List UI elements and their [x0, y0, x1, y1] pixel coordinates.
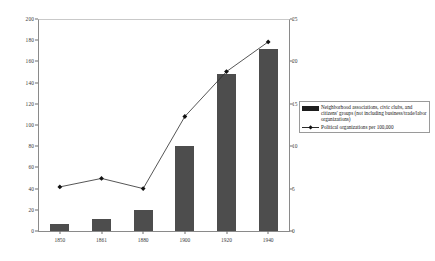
x-axis-tick-label: 1861 [96, 237, 107, 243]
x-axis-tick-label: 1880 [138, 237, 149, 243]
left-axis-tick-label: 160 [26, 58, 34, 64]
x-axis-tick-mark [226, 231, 227, 234]
x-axis-tick-mark [143, 231, 144, 234]
line-marker-icon [302, 125, 319, 130]
left-axis-tick-mark [35, 82, 38, 83]
left-axis-tick-label: 20 [28, 207, 34, 213]
x-axis-tick-mark [101, 231, 102, 234]
x-axis-tick-label: 1940 [263, 237, 274, 243]
left-axis-tick-mark [35, 125, 38, 126]
line-marker [141, 186, 146, 191]
left-axis-tick-label: 200 [26, 16, 34, 22]
x-axis-tick-mark [59, 231, 60, 234]
left-axis-tick-label: 140 [26, 80, 34, 86]
left-axis: 020406080100120140160180200 [0, 0, 34, 261]
left-axis-tick-mark [35, 209, 38, 210]
left-axis-tick-mark [35, 146, 38, 147]
chart-container: 020406080100120140160180200 0510152025 1… [0, 0, 435, 261]
line-series [39, 19, 289, 231]
x-axis-tick-label: 1850 [54, 237, 65, 243]
left-axis-tick-label: 40 [28, 186, 34, 192]
left-axis-tick-mark [35, 188, 38, 189]
legend-entry-bar: Neighborhood associations, civic clubs, … [302, 104, 427, 123]
right-axis-tick-mark [290, 146, 293, 147]
right-axis-tick-mark [290, 231, 293, 232]
chart-legend: Neighborhood associations, civic clubs, … [299, 101, 430, 133]
left-axis-tick-label: 60 [28, 164, 34, 170]
x-axis-tick-label: 1900 [179, 237, 190, 243]
left-axis-tick-mark [35, 40, 38, 41]
bar-swatch-icon [302, 106, 319, 111]
left-axis-tick-mark [35, 167, 38, 168]
left-axis-tick-label: 180 [26, 37, 34, 43]
left-axis-tick-mark [35, 19, 38, 20]
x-axis-tick-label: 1920 [221, 237, 232, 243]
legend-label-bar: Neighborhood associations, civic clubs, … [321, 104, 427, 123]
left-axis-tick-label: 0 [31, 228, 34, 234]
left-axis-tick-label: 120 [26, 101, 34, 107]
legend-entry-line: Political organizations per 100,000 [302, 124, 427, 131]
line-marker [57, 184, 62, 189]
line-path [60, 42, 268, 189]
left-axis-tick-label: 80 [28, 143, 34, 149]
x-axis-tick-mark [268, 231, 269, 234]
right-axis-tick-mark [290, 61, 293, 62]
legend-label-line: Political organizations per 100,000 [321, 124, 394, 130]
right-axis-tick-mark [290, 188, 293, 189]
right-axis-tick-mark [290, 19, 293, 20]
left-axis-tick-label: 100 [26, 122, 34, 128]
right-axis-tick-mark [290, 103, 293, 104]
line-marker [99, 176, 104, 181]
x-axis-tick-mark [184, 231, 185, 234]
left-axis-tick-mark [35, 61, 38, 62]
left-axis-tick-mark [35, 103, 38, 104]
left-axis-tick-mark [35, 231, 38, 232]
